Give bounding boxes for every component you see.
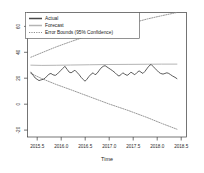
legend-label-actual: Actual — [45, 16, 58, 21]
y-tick-label: 40 — [16, 49, 21, 55]
legend-label-error-bounds: Error Bounds (95% Confidence) — [45, 30, 113, 35]
series-forecast — [31, 64, 177, 65]
x-tick-label: 2017.5 — [126, 144, 140, 149]
chart-canvas: 60 40 20 0 -20 2015.5 2016.0 2016.5 2017… — [0, 0, 204, 173]
x-tick-label: 2017.0 — [102, 144, 116, 149]
legend-label-forecast: Forecast — [45, 23, 64, 28]
y-tick-label: 0 — [16, 102, 21, 105]
x-axis-ticks — [37, 137, 181, 141]
x-axis-tick-labels: 2015.5 2016.0 2016.5 2017.0 2017.5 2018.… — [30, 144, 188, 149]
x-tick-label: 2018.0 — [150, 144, 164, 149]
x-tick-label: 2018.5 — [174, 144, 188, 149]
y-axis-tick-labels: 60 40 20 0 -20 — [16, 23, 21, 133]
y-tick-label: -20 — [16, 126, 21, 133]
y-tick-label: 60 — [16, 23, 21, 29]
series-actual — [31, 64, 177, 81]
x-axis-title: Time — [101, 156, 113, 162]
x-tick-label: 2016.5 — [78, 144, 92, 149]
y-axis-ticks — [24, 26, 28, 130]
y-tick-label: 20 — [16, 75, 21, 81]
x-tick-label: 2015.5 — [30, 144, 44, 149]
x-tick-label: 2016.0 — [54, 144, 68, 149]
chart-legend[interactable]: Actual Forecast Error Bounds (95% Confid… — [26, 13, 140, 39]
series-error-bounds-lower — [31, 73, 177, 129]
forecast-chart-figure: 60 40 20 0 -20 2015.5 2016.0 2016.5 2017… — [0, 0, 204, 173]
